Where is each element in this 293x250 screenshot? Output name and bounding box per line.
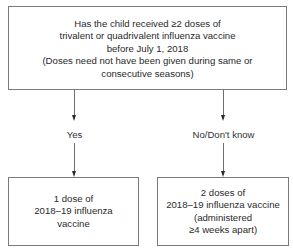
no-connector-lower — [223, 143, 224, 172]
two-doses-line-1: 2 doses of — [201, 187, 245, 199]
one-dose-line-1: 1 dose of — [54, 193, 93, 205]
one-dose-result-box: 1 dose of 2018–19 influenza vaccine — [8, 177, 139, 246]
question-line-1: Has the child received ≥2 doses of — [74, 18, 221, 30]
question-note-line-2: consecutive seasons) — [101, 68, 193, 80]
question-line-2: trivalent or quadrivalent influenza vacc… — [60, 30, 236, 42]
yes-arrowhead-upper-icon — [72, 115, 76, 121]
no-arrowhead-upper-icon — [221, 115, 225, 121]
question-line-3: before July 1, 2018 — [107, 43, 189, 55]
yes-label: Yes — [66, 129, 84, 141]
no-dont-know-label: No/Don't know — [191, 129, 255, 141]
one-dose-line-2: 2018–19 influenza — [34, 205, 112, 217]
question-box: Has the child received ≥2 doses of triva… — [8, 6, 287, 90]
question-note-line-1: (Doses need not have been given during s… — [42, 55, 252, 67]
no-connector-upper — [223, 90, 224, 116]
two-doses-line-2: 2018–19 influenza vaccine — [166, 199, 280, 211]
two-doses-result-box: 2 doses of 2018–19 influenza vaccine (ad… — [157, 177, 289, 246]
one-dose-line-3: vaccine — [57, 218, 90, 230]
two-doses-line-4: ≥4 weeks apart) — [189, 224, 257, 236]
two-doses-line-3: (administered — [194, 212, 252, 224]
yes-connector-lower — [74, 143, 75, 172]
yes-connector-upper — [74, 90, 75, 116]
